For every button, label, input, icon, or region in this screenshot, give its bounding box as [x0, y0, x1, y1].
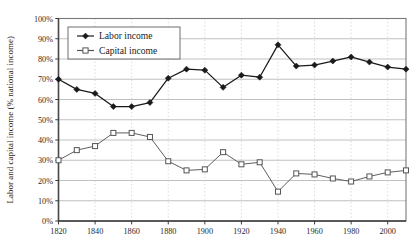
y-tick-label-50: 50% — [38, 116, 53, 125]
data-marker — [294, 171, 299, 176]
data-marker — [166, 159, 171, 164]
legend-label-2: Capital income — [99, 45, 157, 56]
x-tick-label-1940: 1940 — [270, 227, 286, 236]
data-marker — [312, 172, 317, 177]
data-marker — [330, 176, 335, 181]
y-tick-label-40: 40% — [38, 136, 53, 145]
chart-figure: 0%10%20%30%40%50%60%70%80%90%100%1820184… — [0, 0, 419, 246]
x-axis-ticks: 1820184018601880190019201940196019802000 — [50, 221, 396, 236]
y-tick-label-70: 70% — [38, 75, 53, 84]
y-axis-title: Labor and capital income (% national inc… — [5, 36, 15, 203]
x-tick-label-2000: 2000 — [380, 227, 396, 236]
y-tick-label-80: 80% — [38, 55, 53, 64]
y-tick-label-30: 30% — [38, 156, 53, 165]
y-axis-ticks: 0%10%20%30%40%50%60%70%80%90%100% — [34, 15, 59, 227]
data-marker — [56, 158, 61, 163]
data-marker — [202, 167, 207, 172]
data-marker — [275, 189, 280, 194]
data-marker — [404, 168, 409, 173]
x-tick-label-1840: 1840 — [87, 227, 103, 236]
x-tick-label-1820: 1820 — [50, 227, 66, 236]
y-tick-label-20: 20% — [38, 177, 53, 186]
data-marker — [93, 144, 98, 149]
x-tick-label-1960: 1960 — [306, 227, 322, 236]
data-marker — [74, 148, 79, 153]
data-marker — [221, 150, 226, 155]
data-marker — [257, 160, 262, 165]
legend-label-1: Labor income — [99, 30, 153, 41]
data-marker — [147, 134, 152, 139]
x-tick-label-1900: 1900 — [197, 227, 213, 236]
chart-legend: Labor incomeCapital income — [68, 27, 180, 59]
data-marker — [111, 130, 116, 135]
y-tick-label-90: 90% — [38, 35, 53, 44]
data-marker — [184, 168, 189, 173]
y-tick-label-60: 60% — [38, 96, 53, 105]
data-marker — [239, 162, 244, 167]
y-tick-label-0: 0% — [42, 217, 53, 226]
data-marker — [385, 170, 390, 175]
data-marker — [129, 130, 134, 135]
x-tick-label-1920: 1920 — [233, 227, 249, 236]
data-marker — [367, 174, 372, 179]
y-tick-label-100: 100% — [34, 15, 53, 24]
x-tick-label-1980: 1980 — [343, 227, 359, 236]
data-marker — [349, 179, 354, 184]
x-tick-label-1880: 1880 — [160, 227, 176, 236]
y-tick-label-10: 10% — [38, 197, 53, 206]
x-tick-label-1860: 1860 — [123, 227, 139, 236]
legend-marker-open-square-icon — [83, 48, 88, 53]
chart-canvas: 0%10%20%30%40%50%60%70%80%90%100%1820184… — [0, 0, 419, 246]
